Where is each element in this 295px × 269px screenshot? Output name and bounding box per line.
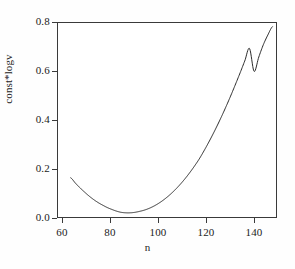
x-tick-mark (206, 218, 207, 223)
data-series-curve (71, 27, 273, 213)
y-tick-label-08: 0.8 (12, 15, 50, 27)
y-tick-label-00: 0.0 (12, 211, 50, 223)
y-tick-mark (52, 71, 57, 72)
x-tick-mark (254, 218, 255, 223)
y-tick-mark (52, 218, 57, 219)
y-tick-mark (52, 22, 57, 23)
x-axis-title: n (0, 241, 295, 253)
y-tick-label-02: 0.2 (12, 162, 50, 174)
y-axis-title: const*logv (2, 54, 14, 103)
y-tick-label-06: 0.6 (12, 64, 50, 76)
x-tick-mark (158, 218, 159, 223)
x-tick-label-100: 100 (138, 226, 178, 238)
x-tick-label-60: 60 (42, 226, 82, 238)
chart-figure: 60 80 100 120 140 0.8 0.6 0.4 0.2 0.0 n … (0, 0, 295, 269)
x-tick-mark (62, 218, 63, 223)
x-tick-label-80: 80 (90, 226, 130, 238)
y-tick-label-04: 0.4 (12, 113, 50, 125)
y-axis-title-wrapper: const*logv (0, 29, 16, 129)
x-tick-mark (110, 218, 111, 223)
y-tick-mark (52, 120, 57, 121)
x-tick-label-120: 120 (186, 226, 226, 238)
y-tick-mark (52, 169, 57, 170)
chart-plot-area (57, 22, 277, 218)
x-tick-label-140: 140 (234, 226, 274, 238)
